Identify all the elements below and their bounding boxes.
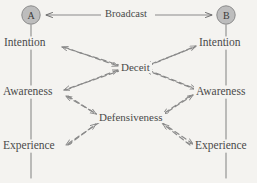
broadcast-label: Broadcast [103,9,149,20]
deceit-outbound-right [148,46,196,89]
deceit-inbound-left [64,47,118,90]
agent-label-a: A [28,11,35,21]
left-level-intention: Intention [2,37,48,49]
right-level-intention: Intention [197,37,243,49]
hub-label-deceit: Deceit [119,62,152,73]
right-level-awareness: Awareness [194,86,247,98]
left-level-awareness: Awareness [1,86,54,98]
agent-label-b: B [223,11,230,21]
right-level-experience: Experience [193,140,249,152]
hub-label-defensiveness: Defensiveness [97,112,165,123]
diagram-canvas: A B Broadcast Intention Awareness Experi… [0,0,257,183]
left-level-experience: Experience [1,140,57,152]
